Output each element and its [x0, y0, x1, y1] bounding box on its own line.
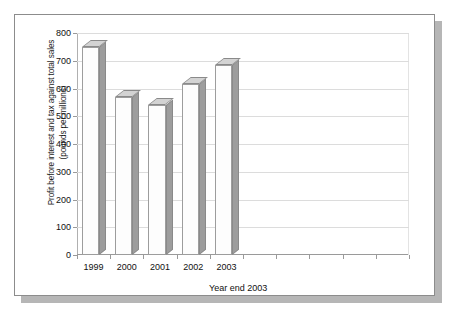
x-tick-mark	[77, 255, 78, 259]
y-tick-label: 300	[56, 167, 71, 177]
x-tick-mark	[210, 255, 211, 259]
x-tick-mark	[276, 255, 277, 259]
y-tick-mark	[73, 116, 77, 117]
y-tick-label: 0	[66, 250, 71, 260]
x-tick-mark	[243, 255, 244, 259]
x-tick-label: 2002	[183, 262, 203, 272]
y-tick-mark	[73, 227, 77, 228]
y-tick-label: 800	[56, 28, 71, 38]
bar-side-face	[232, 59, 239, 255]
x-tick-mark	[177, 255, 178, 259]
bar-front-face	[182, 84, 199, 255]
plot-area: 0100200300400500600700800 19992000200120…	[77, 33, 409, 255]
bar-side-face	[99, 41, 106, 255]
y-tick-mark	[73, 61, 77, 62]
chart-canvas: Profit before interest and tax against t…	[15, 15, 434, 295]
bar-front-face	[148, 105, 165, 255]
bar-2002	[182, 84, 199, 255]
x-tick-label: 2003	[216, 262, 236, 272]
y-tick-label: 400	[56, 139, 71, 149]
bar-side-face	[166, 100, 173, 255]
x-tick-label: 1999	[84, 262, 104, 272]
y-tick-mark	[73, 144, 77, 145]
x-tick-mark	[409, 255, 410, 259]
x-tick-mark	[143, 255, 144, 259]
x-tick-mark	[110, 255, 111, 259]
bar-side-face	[199, 79, 206, 255]
y-tick-label: 200	[56, 195, 71, 205]
bar-2003	[215, 65, 232, 255]
gridline	[77, 33, 409, 34]
x-tick-mark	[376, 255, 377, 259]
bar-front-face	[115, 97, 132, 255]
bar-1999	[82, 47, 99, 255]
y-tick-label: 100	[56, 222, 71, 232]
y-tick-mark	[73, 89, 77, 90]
chart-card: Profit before interest and tax against t…	[14, 14, 435, 296]
bar-front-face	[82, 47, 99, 255]
y-tick-mark	[73, 200, 77, 201]
y-tick-mark	[73, 33, 77, 34]
y-tick-label: 600	[56, 84, 71, 94]
y-tick-label: 500	[56, 111, 71, 121]
x-tick-mark	[309, 255, 310, 259]
x-tick-label: 2000	[117, 262, 137, 272]
y-tick-mark	[73, 172, 77, 173]
bar-2000	[115, 97, 132, 255]
x-axis-title: Year end 2003	[209, 283, 267, 293]
x-tick-mark	[343, 255, 344, 259]
gridline	[77, 61, 409, 62]
figure-root: Profit before interest and tax against t…	[0, 0, 455, 320]
bar-side-face	[132, 91, 139, 255]
y-tick-label: 700	[56, 56, 71, 66]
x-tick-label: 2001	[150, 262, 170, 272]
bar-front-face	[215, 65, 232, 255]
bar-2001	[148, 105, 165, 255]
